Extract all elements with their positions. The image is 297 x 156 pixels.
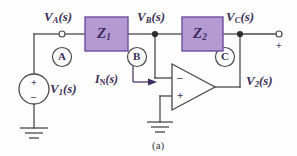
output-terminal-plus-sign: + [276,41,282,51]
opamp-noninverting-sign: + [177,90,183,101]
label-z1: Z1 [97,26,111,43]
current-arrowhead-in [148,79,157,86]
ground-symbol-opamp [147,122,173,132]
label-v-2: V2(s) [246,74,273,88]
opamp-inverting-sign: – [177,72,183,83]
source-minus-sign: – [31,92,36,102]
node-dot-b [152,31,158,37]
label-v-b: VB(s) [137,10,165,24]
figure-caption: (a) [152,140,164,151]
label-v-1: V1(s) [50,82,77,96]
open-terminal-output [276,31,282,37]
label-v-c: VC(s) [226,10,254,24]
circuit-figure: VA(s) VB(s) VC(s) V1(s) V2(s) IN(s) Z1 Z… [0,0,297,156]
label-z2: Z2 [193,26,207,43]
label-i-n: IN(s) [95,73,118,87]
open-terminal-a [59,31,65,37]
node-dot-c [237,31,243,37]
ground-symbol-left [20,128,48,138]
node-label-b: B [133,51,140,62]
node-label-a: A [58,51,66,62]
current-arrow-in [133,66,148,82]
source-plus-sign: + [31,78,37,88]
node-label-c: C [221,51,229,62]
label-v-a: VA(s) [44,10,72,24]
